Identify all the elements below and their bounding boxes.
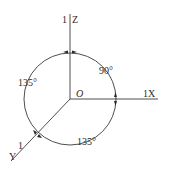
axes-diagram: 1 Z 1X Y 1 O 90° 135° 135° (0, 0, 172, 173)
x-axis-label: 1X (143, 88, 156, 99)
y-axis-label: Y (9, 151, 16, 162)
arrow-icon (114, 101, 117, 106)
z-axis-label: Z (72, 14, 78, 25)
z-scale-label: 1 (62, 14, 67, 25)
angle-label-zx: 90° (99, 65, 113, 76)
y-axis (11, 99, 70, 161)
angle-label-zy: 135° (18, 77, 37, 88)
y-scale-label: 1 (18, 140, 23, 151)
arrow-icon (114, 92, 117, 97)
angle-label-xy: 135° (77, 136, 96, 147)
origin-label: O (76, 88, 83, 99)
